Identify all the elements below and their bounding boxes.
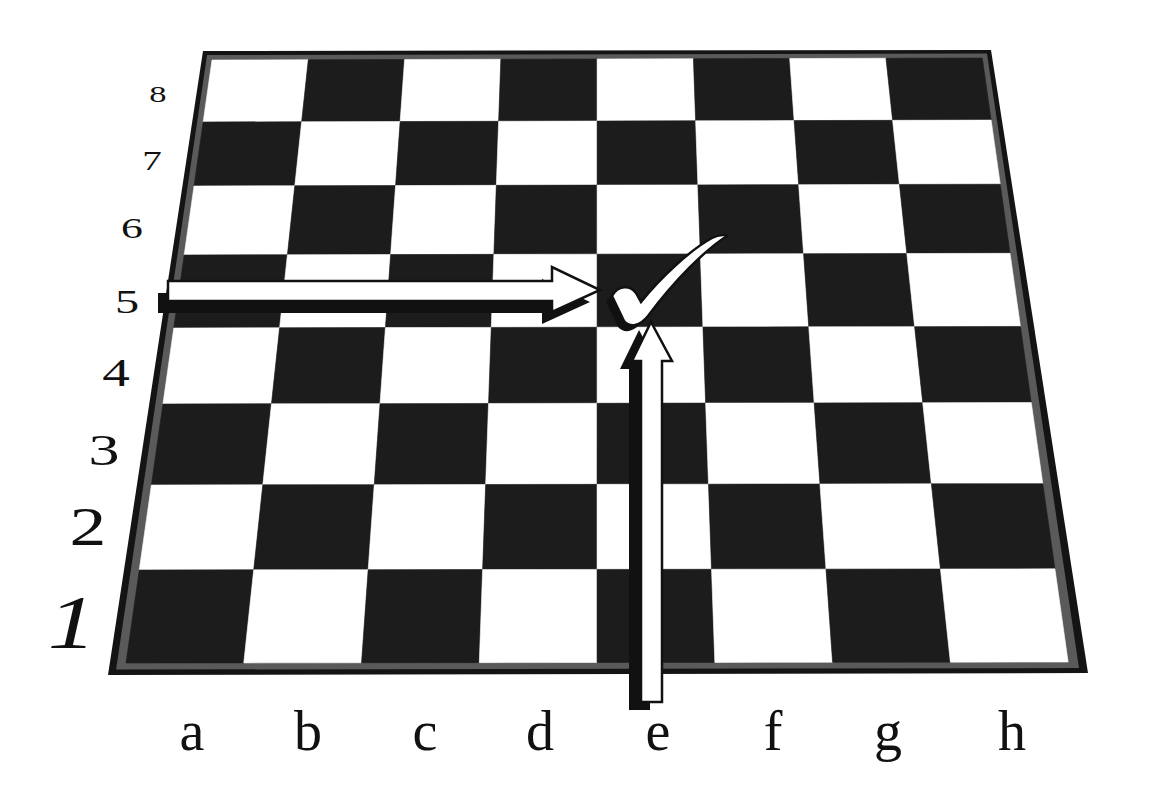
square-g6 <box>799 184 907 253</box>
square-a2 <box>139 485 263 570</box>
square-f5 <box>700 254 808 327</box>
square-h5 <box>907 253 1021 326</box>
file-label-g: g <box>874 700 902 762</box>
square-e6 <box>597 185 700 254</box>
square-d6 <box>494 185 597 254</box>
square-d2 <box>483 484 597 569</box>
square-h7 <box>893 120 1001 184</box>
square-d3 <box>486 403 597 484</box>
square-b1 <box>244 570 368 663</box>
square-h4 <box>915 326 1032 402</box>
square-a1 <box>126 570 254 663</box>
file-label-a: a <box>180 700 205 762</box>
rank-label-4: 4 <box>102 351 130 395</box>
square-g4 <box>809 327 923 403</box>
square-h6 <box>899 184 1010 253</box>
square-b3 <box>263 404 380 485</box>
square-a7 <box>194 122 302 186</box>
square-c7 <box>396 121 499 185</box>
file-label-c: c <box>413 700 438 762</box>
square-g3 <box>814 403 931 484</box>
square-c4 <box>380 327 491 403</box>
square-c6 <box>391 185 497 254</box>
chess-diagram: 87654321 abcdefgh <box>0 0 1151 805</box>
rank-label-6: 6 <box>121 213 143 245</box>
square-c8 <box>400 59 501 121</box>
square-a8 <box>203 60 308 122</box>
square-f4 <box>703 327 814 403</box>
square-e8 <box>597 59 695 121</box>
rank-label-7: 7 <box>142 146 162 175</box>
rank-label-8: 8 <box>149 82 166 107</box>
square-h8 <box>886 58 991 120</box>
square-c1 <box>362 570 483 663</box>
square-a3 <box>151 404 271 485</box>
file-label-d: d <box>526 700 554 762</box>
square-h2 <box>931 484 1055 569</box>
square-c3 <box>374 403 488 484</box>
square-b8 <box>302 60 405 122</box>
rank-label-2: 2 <box>70 496 107 557</box>
square-g7 <box>794 120 899 184</box>
square-f2 <box>709 484 826 569</box>
square-f3 <box>706 403 820 484</box>
square-a6 <box>184 186 295 255</box>
square-g8 <box>790 58 893 120</box>
file-label-f: f <box>764 700 783 762</box>
rank-label-3: 3 <box>88 426 119 475</box>
square-e7 <box>597 121 698 185</box>
rank-label-1: 1 <box>48 581 96 665</box>
square-b6 <box>287 186 395 255</box>
square-b7 <box>295 122 400 186</box>
square-g2 <box>820 484 941 569</box>
square-d8 <box>499 59 598 121</box>
square-d4 <box>489 327 598 403</box>
square-f1 <box>712 569 833 662</box>
square-a4 <box>163 328 280 404</box>
file-labels: abcdefgh <box>180 700 1026 762</box>
square-c2 <box>368 485 485 570</box>
rank-label-5: 5 <box>115 283 139 320</box>
board-squares <box>126 58 1068 663</box>
square-d1 <box>479 569 597 662</box>
chessboard-figure: 87654321 abcdefgh <box>0 0 1151 805</box>
square-f8 <box>693 59 794 121</box>
square-g5 <box>804 254 915 327</box>
square-b4 <box>271 328 385 404</box>
square-h1 <box>940 569 1068 662</box>
square-f7 <box>696 121 799 185</box>
square-b2 <box>254 485 375 570</box>
square-d7 <box>496 121 597 185</box>
file-label-h: h <box>998 700 1026 762</box>
file-label-b: b <box>294 700 322 762</box>
square-h3 <box>923 403 1043 484</box>
square-g1 <box>826 569 950 662</box>
